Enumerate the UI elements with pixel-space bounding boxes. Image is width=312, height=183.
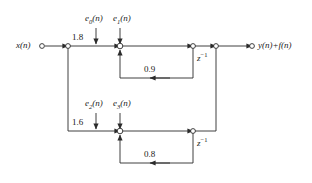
error-label-e2-arg: (n): [92, 98, 103, 108]
gain-label-1-6: 1.6: [72, 118, 83, 127]
error-label-e1: e1(n): [113, 14, 131, 25]
diagram-canvas: [0, 0, 312, 183]
delay-label-bottom: z−1: [197, 137, 207, 148]
node-delay1: [191, 44, 196, 49]
node-output-junction: [214, 44, 219, 49]
error-label-e3-arg: (n): [120, 98, 131, 108]
gain-label-0-8: 0.8: [144, 150, 155, 159]
output-signal-label: y(n)+f(n): [258, 41, 292, 50]
signal-flow-diagram: x(n) y(n)+f(n) e0(n) e1(n) e2(n) e3(n) 1…: [0, 0, 312, 183]
gain-label-0-9: 0.9: [144, 65, 155, 74]
node-input-terminal: [40, 44, 45, 49]
error-label-e0-arg: (n): [92, 13, 103, 23]
node-output-terminal: [250, 44, 255, 49]
error-label-e3: e3(n): [113, 99, 131, 110]
node-sum-e1: [117, 43, 123, 49]
gain-label-1-8: 1.8: [72, 33, 83, 42]
error-label-e1-arg: (n): [120, 13, 131, 23]
delay-label-top: z−1: [197, 52, 207, 63]
node-sum-e3: [117, 128, 123, 134]
node-delay2: [191, 129, 196, 134]
node-branch-top: [66, 44, 71, 49]
error-label-e2: e2(n): [85, 99, 103, 110]
error-label-e0: e0(n): [85, 14, 103, 25]
delay-label-bottom-exponent: −1: [201, 136, 208, 143]
input-signal-label: x(n): [16, 41, 31, 50]
delay-label-top-exponent: −1: [201, 51, 208, 58]
